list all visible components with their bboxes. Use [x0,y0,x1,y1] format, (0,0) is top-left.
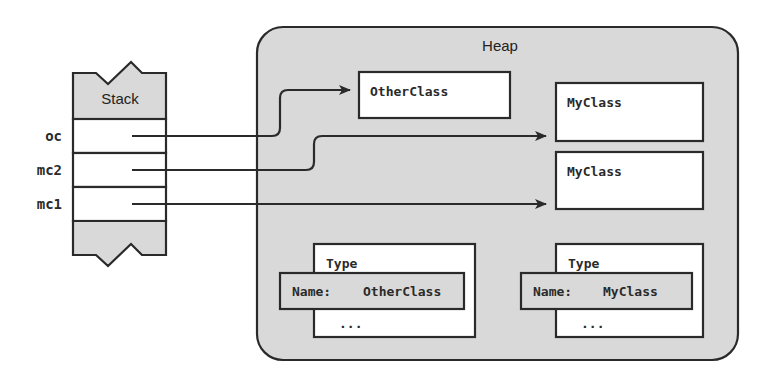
type-name-key: Name: [533,284,572,299]
heap-object-myclass-2: MyClass [556,152,703,209]
stack-label: Stack [101,90,139,107]
object-label: MyClass [567,95,622,110]
heap-label: Heap [482,37,518,54]
stack-heap-diagram: Heap OtherClass MyClass MyClass Type Nam… [0,0,775,378]
object-label: MyClass [567,164,622,179]
heap-object-myclass-1: MyClass [556,83,703,141]
var-label-mc1: mc1 [37,196,62,212]
type-name-value: OtherClass [363,284,441,299]
type-ellipsis: ... [339,316,362,331]
type-title: Type [326,256,357,271]
stack-region: Stack oc mc2 mc1 [37,62,166,266]
stack-footer [73,221,166,266]
object-label: OtherClass [370,84,448,99]
heap-region: Heap OtherClass MyClass MyClass Type Nam… [257,27,738,360]
type-name-value: MyClass [603,284,658,299]
type-name-key: Name: [292,284,331,299]
type-title: Type [568,256,599,271]
object-box [556,152,703,209]
var-label-oc: oc [45,128,62,144]
heap-object-otherclass: OtherClass [359,72,510,118]
type-ellipsis: ... [581,316,604,331]
object-box [556,83,703,141]
var-label-mc2: mc2 [37,162,62,178]
